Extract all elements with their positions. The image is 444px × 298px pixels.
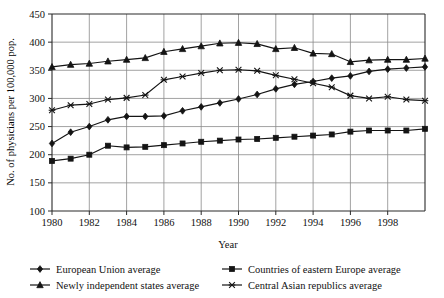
data-point-marker-x bbox=[229, 282, 236, 288]
data-point-marker-diamond bbox=[366, 68, 371, 75]
data-point-marker-diamond bbox=[199, 103, 204, 110]
x-tick-label: 1984 bbox=[116, 217, 138, 228]
data-point-marker-square bbox=[367, 128, 372, 133]
y-axis-title-group: No. of physicians per 100,000 pop. bbox=[5, 38, 16, 186]
legend-label: Central Asian republics average bbox=[248, 280, 382, 291]
data-point-marker-diamond bbox=[143, 113, 148, 120]
legend-label: Newly independent states average bbox=[56, 280, 199, 291]
data-point-marker-square bbox=[292, 134, 297, 139]
data-point-marker-diamond bbox=[124, 113, 129, 120]
data-point-marker-square bbox=[217, 138, 222, 143]
data-point-marker-square bbox=[87, 152, 92, 157]
data-point-marker-x bbox=[105, 97, 112, 103]
data-point-marker-square bbox=[385, 128, 390, 133]
data-point-marker-diamond bbox=[37, 266, 42, 273]
y-tick-label: 250 bbox=[29, 121, 45, 132]
data-point-marker-diamond bbox=[217, 100, 222, 107]
data-point-marker-square bbox=[311, 133, 316, 138]
x-tick-label: 1980 bbox=[42, 217, 63, 228]
data-point-marker-diamond bbox=[236, 96, 241, 103]
x-tick-label: 1994 bbox=[303, 217, 325, 228]
chart-canvas: No. of physicians per 100,000 pop. 10015… bbox=[0, 0, 444, 298]
data-point-marker-x bbox=[328, 84, 335, 90]
x-tick-label: 1992 bbox=[265, 217, 286, 228]
y-tick-label: 100 bbox=[29, 206, 45, 217]
data-point-marker-diamond bbox=[422, 64, 427, 71]
data-point-marker-square bbox=[348, 129, 353, 134]
y-tick-label: 150 bbox=[29, 177, 45, 188]
data-point-marker-diamond bbox=[255, 91, 260, 98]
data-point-marker-diamond bbox=[87, 123, 92, 130]
data-point-marker-diamond bbox=[49, 140, 54, 147]
data-point-marker-square bbox=[404, 128, 409, 133]
legend-item-1: European Union average bbox=[30, 264, 161, 275]
x-tick-label: 1996 bbox=[340, 217, 361, 228]
data-point-marker-x bbox=[179, 74, 186, 80]
data-point-marker-x bbox=[217, 67, 224, 73]
data-point-marker-x bbox=[254, 68, 261, 74]
data-point-marker-diamond bbox=[68, 129, 73, 136]
data-point-marker-square bbox=[255, 136, 260, 141]
x-axis-tick-labels: 1980198219841986198819901992199419961998 bbox=[42, 217, 399, 228]
physicians-per-100000-line-chart: No. of physicians per 100,000 pop. 10015… bbox=[0, 0, 444, 298]
y-tick-label: 300 bbox=[29, 93, 45, 104]
y-axis-title: No. of physicians per 100,000 pop. bbox=[5, 38, 16, 186]
y-axis-tick-labels: 100150200250300350400450 bbox=[29, 9, 45, 217]
data-point-marker-diamond bbox=[161, 113, 166, 120]
data-point-marker-x bbox=[366, 96, 373, 102]
x-tick-label: 1998 bbox=[377, 217, 398, 228]
chart-legend: European Union averageCountries of easte… bbox=[30, 264, 401, 291]
x-tick-label: 1990 bbox=[228, 217, 249, 228]
x-tick-label: 1982 bbox=[79, 217, 100, 228]
data-point-marker-square bbox=[105, 143, 110, 148]
data-point-marker-square bbox=[161, 143, 166, 148]
data-point-marker-square bbox=[236, 137, 241, 142]
data-point-marker-diamond bbox=[273, 85, 278, 92]
x-tick-label: 1988 bbox=[191, 217, 212, 228]
data-point-marker-square bbox=[50, 158, 55, 163]
data-point-marker-x bbox=[67, 102, 74, 108]
legend-item-3: Newly independent states average bbox=[30, 280, 199, 291]
data-point-marker-square bbox=[68, 156, 73, 161]
x-tick-label: 1986 bbox=[153, 217, 174, 228]
data-point-marker-diamond bbox=[180, 107, 185, 114]
data-point-marker-diamond bbox=[105, 116, 110, 123]
legend-item-2: Countries of eastern Europe average bbox=[222, 264, 401, 275]
y-tick-label: 200 bbox=[29, 149, 45, 160]
legend-item-4: Central Asian republics average bbox=[222, 280, 382, 291]
x-axis-title: Year bbox=[218, 239, 238, 250]
data-point-marker-diamond bbox=[385, 66, 390, 73]
data-point-marker-square bbox=[423, 126, 428, 131]
data-point-marker-square bbox=[273, 135, 278, 140]
y-tick-label: 450 bbox=[29, 9, 45, 20]
data-point-marker-diamond bbox=[329, 75, 334, 82]
data-point-marker-square bbox=[180, 141, 185, 146]
data-point-marker-square bbox=[124, 145, 129, 150]
data-point-marker-square bbox=[329, 132, 334, 137]
data-point-marker-x bbox=[142, 92, 149, 98]
data-point-marker-x bbox=[403, 97, 410, 103]
y-tick-label: 400 bbox=[29, 37, 45, 48]
data-point-marker-square bbox=[199, 139, 204, 144]
data-point-marker-diamond bbox=[348, 73, 353, 80]
legend-label: European Union average bbox=[56, 264, 161, 275]
legend-label: Countries of eastern Europe average bbox=[248, 264, 401, 275]
data-point-marker-square bbox=[230, 267, 235, 272]
data-point-marker-diamond bbox=[292, 81, 297, 88]
data-point-marker-square bbox=[143, 144, 148, 149]
y-tick-label: 350 bbox=[29, 65, 45, 76]
